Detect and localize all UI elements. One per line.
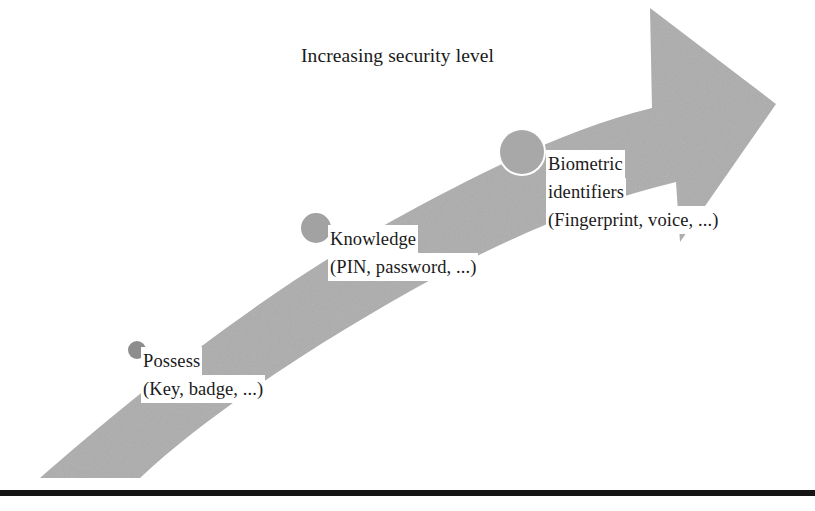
label-possess-examples: (Key, badge, ...) [141,375,265,403]
label-biometric-name-line2: identifiers [546,178,626,206]
marker-dot-biometric [498,128,546,176]
label-knowledge-name: Knowledge [328,225,418,253]
baseline-rule [0,490,815,496]
label-knowledge-examples: (PIN, password, ...) [328,253,478,281]
label-biometric-examples: (Fingerprint, voice, ...) [546,206,721,234]
label-biometric: Biometric identifiers (Fingerprint, voic… [546,150,721,234]
label-possess: Possess (Key, badge, ...) [141,347,265,403]
label-biometric-name-line1: Biometric [546,150,625,178]
label-knowledge: Knowledge (PIN, password, ...) [328,225,478,281]
label-possess-name: Possess [141,347,202,375]
security-level-figure: Increasing security level Possess (Key, … [0,0,815,511]
figure-title: Increasing security level [301,42,494,70]
